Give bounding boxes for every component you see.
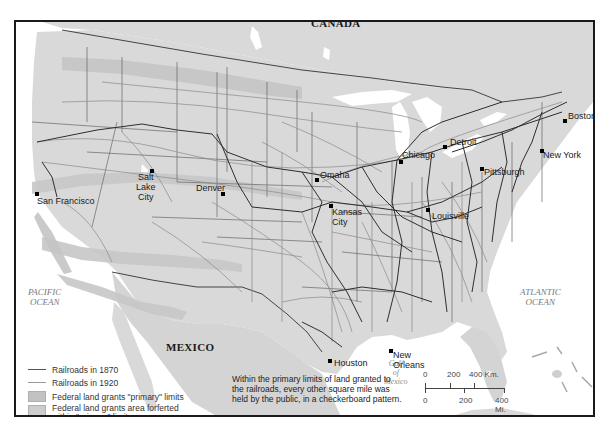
city-label-new-york: New York <box>543 150 581 160</box>
city-label-omaha: Omaha <box>320 170 350 180</box>
city-label-houston: Houston <box>334 358 368 368</box>
legend-item-railroads-1870: Railroads in 1870 <box>28 363 184 376</box>
country-label-mexico: MEXICO <box>166 341 214 353</box>
scale-bar: 0 200 400 Km. 0 200 400 Mi. <box>423 370 513 410</box>
city-marker-chicago <box>399 160 403 164</box>
country-label-canada: CANADA <box>311 20 360 29</box>
map-frame: CANADA MEXICO PACIFIC OCEAN ATLANTIC OCE… <box>14 20 595 417</box>
city-label-denver: Denver <box>196 183 225 193</box>
city-label-chicago: Chicago <box>402 150 435 160</box>
checkerboard-note: Within the primary limits of land grante… <box>232 374 402 404</box>
city-label-kansas-city: Kansas City <box>332 207 362 227</box>
rail-1870-line-icon <box>28 369 46 370</box>
city-marker-omaha <box>315 178 319 182</box>
map-legend: Railroads in 1870 Railroads in 1920 Fede… <box>28 363 184 417</box>
city-label-boston: Boston <box>568 111 595 121</box>
city-marker-houston <box>328 359 332 363</box>
legend-item-grant-primary: Federal land grants "primary" limits <box>28 389 184 404</box>
rail-1920-line-icon <box>28 382 46 383</box>
city-marker-louisville <box>426 208 430 212</box>
scale-line <box>425 388 505 389</box>
us-railroad-map <box>16 22 595 417</box>
legend-item-railroads-1920: Railroads in 1920 <box>28 376 184 389</box>
city-label-louisville: Louisville <box>432 211 469 221</box>
city-marker-boston <box>563 119 567 123</box>
legend-item-grant-forfeited: Federal land grants area forferted withi… <box>28 404 184 417</box>
city-label-detroit: Detroit <box>450 137 477 147</box>
grant-primary-swatch-icon <box>28 391 46 402</box>
city-label-pittsburgh: Pittsburgh <box>484 167 525 177</box>
city-label-salt-lake-city: Salt Lake City <box>136 172 156 202</box>
city-marker-detroit <box>443 145 447 149</box>
grant-forfeited-swatch-icon <box>28 405 46 416</box>
city-label-new-orleans: New Orleans <box>393 350 425 370</box>
ocean-label-pacific: PACIFIC OCEAN <box>28 287 61 307</box>
city-label-san-francisco: San Francisco <box>37 196 95 206</box>
ocean-label-atlantic: ATLANTIC OCEAN <box>520 287 561 307</box>
